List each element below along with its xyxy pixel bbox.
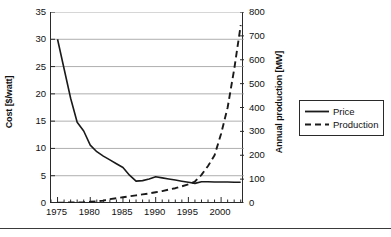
x-tick-label: 1985 xyxy=(111,206,132,217)
series-line-production xyxy=(58,25,241,203)
left-tick-label: 20 xyxy=(35,89,46,99)
y-left-ticks xyxy=(51,12,55,203)
right-tick-label: 700 xyxy=(249,31,265,41)
footer-divider xyxy=(0,228,391,229)
right-tick-label: 100 xyxy=(249,174,265,184)
left-tick-label: 5 xyxy=(41,171,46,181)
right-axis-title-text: Annual production [MW] xyxy=(274,50,284,152)
left-tick-label: 25 xyxy=(35,62,46,72)
x-axis-tick-labels: 197519801985199019952000 xyxy=(0,206,391,222)
plot-area xyxy=(50,12,243,203)
legend-key-solid-line-icon xyxy=(304,106,330,117)
left-tick-label: 35 xyxy=(35,7,46,17)
left-axis-title-text: Cost [$/watt] xyxy=(4,75,14,128)
legend-item-production: Production xyxy=(304,118,379,131)
right-tick-label: 500 xyxy=(249,79,265,89)
right-tick-label: 400 xyxy=(249,103,265,113)
left-axis-title: Cost [$/watt] xyxy=(2,0,16,203)
right-tick-label: 200 xyxy=(249,150,265,160)
plot-canvas xyxy=(51,12,244,203)
legend-label-production: Production xyxy=(333,120,378,130)
left-tick-label: 15 xyxy=(35,116,46,126)
left-tick-label: 30 xyxy=(35,34,46,44)
x-tick-label: 1980 xyxy=(79,206,100,217)
data-series-layer xyxy=(58,25,241,203)
chart-legend: Price Production xyxy=(299,100,384,136)
gridlines xyxy=(51,12,244,176)
right-tick-label: 600 xyxy=(249,55,265,65)
x-tick-label: 1990 xyxy=(144,206,165,217)
right-tick-label: 300 xyxy=(249,126,265,136)
left-tick-label: 10 xyxy=(35,143,46,153)
right-tick-label: 800 xyxy=(249,7,265,17)
legend-key-dashed-line-icon xyxy=(304,119,330,130)
left-axis-tick-labels: 05101520253035 xyxy=(16,0,46,203)
x-tick-label: 1995 xyxy=(177,206,198,217)
chart-figure: Cost [$/watt] Annual production [MW] 051… xyxy=(0,0,391,237)
y-right-ticks xyxy=(240,12,244,203)
right-axis-tick-labels: 0100200300400500600700800 xyxy=(249,0,275,203)
x-tick-label: 2000 xyxy=(210,206,231,217)
series-line-price xyxy=(58,39,241,183)
legend-label-price: Price xyxy=(333,107,355,117)
legend-item-price: Price xyxy=(304,105,379,118)
x-tick-label: 1975 xyxy=(46,206,67,217)
